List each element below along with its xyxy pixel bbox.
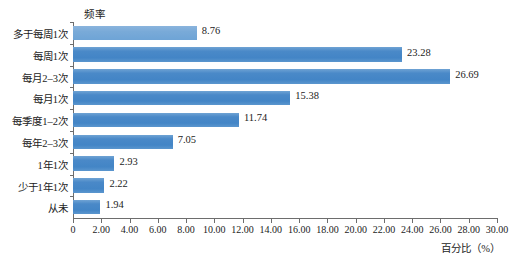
bar-value-label: 26.69 — [455, 69, 479, 80]
x-axis-tick — [214, 219, 215, 223]
y-axis-tick — [70, 66, 73, 67]
x-axis-title: 百分比（%） — [0, 240, 500, 255]
x-axis-tick-label: 24.00 — [401, 224, 424, 235]
bar — [73, 69, 450, 84]
bar-value-label: 7.05 — [178, 134, 196, 145]
bar-value-label: 23.28 — [407, 47, 431, 58]
x-axis-tick — [186, 219, 187, 223]
x-axis-tick-label: 30.00 — [486, 224, 509, 235]
x-axis-tick-label: 4.00 — [121, 224, 139, 235]
x-axis-tick — [356, 219, 357, 223]
x-axis-tick — [243, 219, 244, 223]
y-axis-title: 频率 — [0, 6, 105, 21]
bar-row: 每月2–3次26.69 — [73, 66, 497, 88]
x-axis-tick — [440, 219, 441, 223]
x-axis-tick — [158, 219, 159, 223]
category-label: 少于1年1次 — [0, 179, 68, 194]
bar — [73, 26, 197, 41]
category-label: 每月2–3次 — [0, 70, 68, 85]
x-axis-tick-label: 10.00 — [203, 224, 226, 235]
x-axis-tick-label: 8.00 — [177, 224, 195, 235]
x-axis-tick-label: 16.00 — [288, 224, 311, 235]
y-axis-tick — [70, 109, 73, 110]
bar-chart: 频率 多于每周1次8.76每周1次23.28每月2–3次26.69每月1次15.… — [0, 0, 514, 262]
bar-value-label: 2.22 — [109, 178, 127, 189]
bar-row: 多于每周1次8.76 — [73, 22, 497, 44]
bar — [73, 178, 104, 193]
bar-row: 从未1.94 — [73, 196, 497, 218]
y-axis-tick — [70, 131, 73, 132]
bar-row: 少于1年1次2.22 — [73, 175, 497, 197]
x-axis-tick — [469, 219, 470, 223]
x-axis-tick-label: 18.00 — [316, 224, 339, 235]
bar-row: 每季度1–2次11.74 — [73, 109, 497, 131]
y-axis-tick — [70, 153, 73, 154]
category-label: 从未 — [0, 200, 68, 215]
bar-row: 每周1次23.28 — [73, 44, 497, 66]
bar-value-label: 8.76 — [202, 25, 220, 36]
x-axis-tick-label: 22.00 — [373, 224, 396, 235]
bar-row: 每月1次15.38 — [73, 87, 497, 109]
category-label: 1年1次 — [0, 157, 68, 172]
plot-area: 多于每周1次8.76每周1次23.28每月2–3次26.69每月1次15.38每… — [73, 22, 497, 218]
bar — [73, 91, 290, 106]
category-label: 每月1次 — [0, 91, 68, 106]
x-axis-tick — [412, 219, 413, 223]
bar-value-label: 2.93 — [119, 156, 137, 167]
x-axis-tick-label: 2.00 — [93, 224, 111, 235]
bar-value-label: 11.74 — [244, 112, 267, 123]
x-axis-tick — [497, 219, 498, 223]
category-label: 每年2–3次 — [0, 135, 68, 150]
bar — [73, 135, 173, 150]
y-axis-tick — [70, 87, 73, 88]
y-axis-tick — [70, 196, 73, 197]
x-axis-tick — [130, 219, 131, 223]
x-axis-tick — [299, 219, 300, 223]
y-axis-tick — [70, 175, 73, 176]
x-axis-tick-label: 6.00 — [149, 224, 167, 235]
x-axis-tick — [384, 219, 385, 223]
x-axis-tick-label: 0 — [71, 224, 76, 235]
x-axis-tick — [101, 219, 102, 223]
category-label: 每周1次 — [0, 48, 68, 63]
y-axis-tick — [70, 44, 73, 45]
bar-row: 每年2–3次7.05 — [73, 131, 497, 153]
bar — [73, 47, 402, 62]
x-axis-tick-label: 14.00 — [260, 224, 283, 235]
bar — [73, 200, 100, 215]
bar — [73, 113, 239, 128]
x-axis-tick-label: 28.00 — [457, 224, 480, 235]
category-label: 每季度1–2次 — [0, 113, 68, 128]
x-axis-tick — [327, 219, 328, 223]
x-axis-tick — [271, 219, 272, 223]
x-axis-tick-label: 26.00 — [429, 224, 452, 235]
x-axis-tick — [73, 219, 74, 223]
x-axis-tick-label: 12.00 — [231, 224, 254, 235]
y-axis-tick — [70, 22, 73, 23]
category-label: 多于每周1次 — [0, 26, 68, 41]
bar-row: 1年1次2.93 — [73, 153, 497, 175]
x-axis-tick-label: 20.00 — [344, 224, 367, 235]
bar-value-label: 15.38 — [295, 90, 319, 101]
bar — [73, 156, 114, 171]
bar-value-label: 1.94 — [105, 199, 123, 210]
